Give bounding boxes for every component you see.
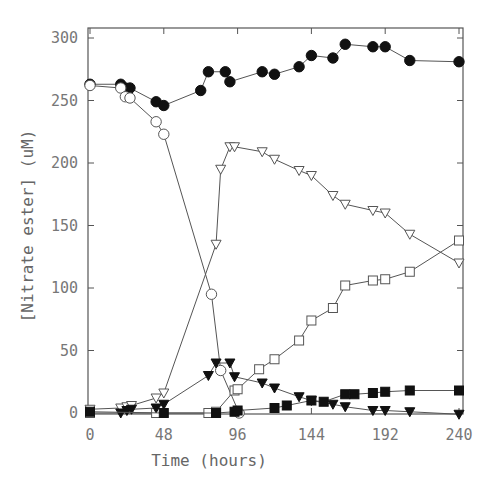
data-point-triangle [257,379,267,388]
data-point-square [368,389,377,398]
series-layer [85,39,464,419]
x-tick-label: 48 [155,426,173,444]
data-point-circle [257,67,267,77]
data-point-circle [269,69,279,79]
data-point-square [368,276,377,285]
data-point-circle [340,39,350,49]
y-tick-label: 250 [51,92,78,110]
data-point-circle [220,67,230,77]
data-point-circle [206,289,216,299]
data-point-circle [151,117,161,127]
data-point-triangle [405,230,415,239]
y-tick-label: 50 [60,342,78,360]
data-point-square [319,397,328,406]
data-point-square [405,386,414,395]
data-point-triangle [294,393,304,402]
data-point-circle [405,55,415,65]
x-tick-label: 240 [445,426,472,444]
data-point-square [86,407,95,416]
data-point-circle [454,57,464,67]
data-point-circle [328,53,338,63]
y-tick-label: 300 [51,29,78,47]
data-point-square [282,401,291,410]
x-tick-label: 192 [372,426,399,444]
data-point-square [295,336,304,345]
y-tick-label: 150 [51,217,78,235]
x-tick-label: 0 [85,426,94,444]
data-point-square [307,396,316,405]
data-point-circle [125,93,135,103]
x-tick-label: 144 [298,426,325,444]
data-point-square [255,365,264,374]
data-point-circle [306,50,316,60]
data-point-square [350,390,359,399]
data-point-square [212,409,221,418]
data-point-circle [159,100,169,110]
data-point-triangle [270,384,280,393]
series-open-circle [85,80,245,418]
data-point-square [341,281,350,290]
y-tick-label: 100 [51,279,78,297]
data-point-triangle [270,155,280,164]
series-filled-circle [85,39,464,111]
x-axis-title: Time (hours) [151,451,267,470]
data-point-circle [196,85,206,95]
y-axis-title: [Nitrate ester] (uM) [18,130,37,323]
data-point-triangle [328,192,338,201]
data-point-square [270,404,279,413]
data-point-square [455,236,464,245]
data-point-circle [203,67,213,77]
data-point-square [455,386,464,395]
x-tick-label: 96 [229,426,247,444]
data-point-square [341,390,350,399]
data-point-square [307,316,316,325]
data-point-triangle [203,372,213,381]
data-point-square [270,355,279,364]
nitrate-ester-chart: 04896144192240050100150200250300 Time (h… [0,0,499,497]
data-point-square [405,267,414,276]
data-point-triangle [294,167,304,176]
data-point-triangle [216,165,226,174]
data-point-circle [225,77,235,87]
data-point-triangle [257,148,267,157]
data-point-square [328,304,337,313]
data-point-square [159,409,168,418]
y-tick-label: 200 [51,154,78,172]
data-point-square [233,406,242,415]
data-point-triangle [211,240,221,249]
data-point-circle [85,80,95,90]
data-point-circle [380,42,390,52]
y-tick-label: 0 [69,404,78,422]
series-open-triangle-down [85,143,464,415]
data-point-square [381,275,390,284]
data-point-triangle [454,410,464,419]
data-point-circle [159,129,169,139]
data-point-square [233,385,242,394]
data-point-circle [368,42,378,52]
data-point-circle [294,62,304,72]
series-line [90,147,459,410]
data-point-square [381,387,390,396]
